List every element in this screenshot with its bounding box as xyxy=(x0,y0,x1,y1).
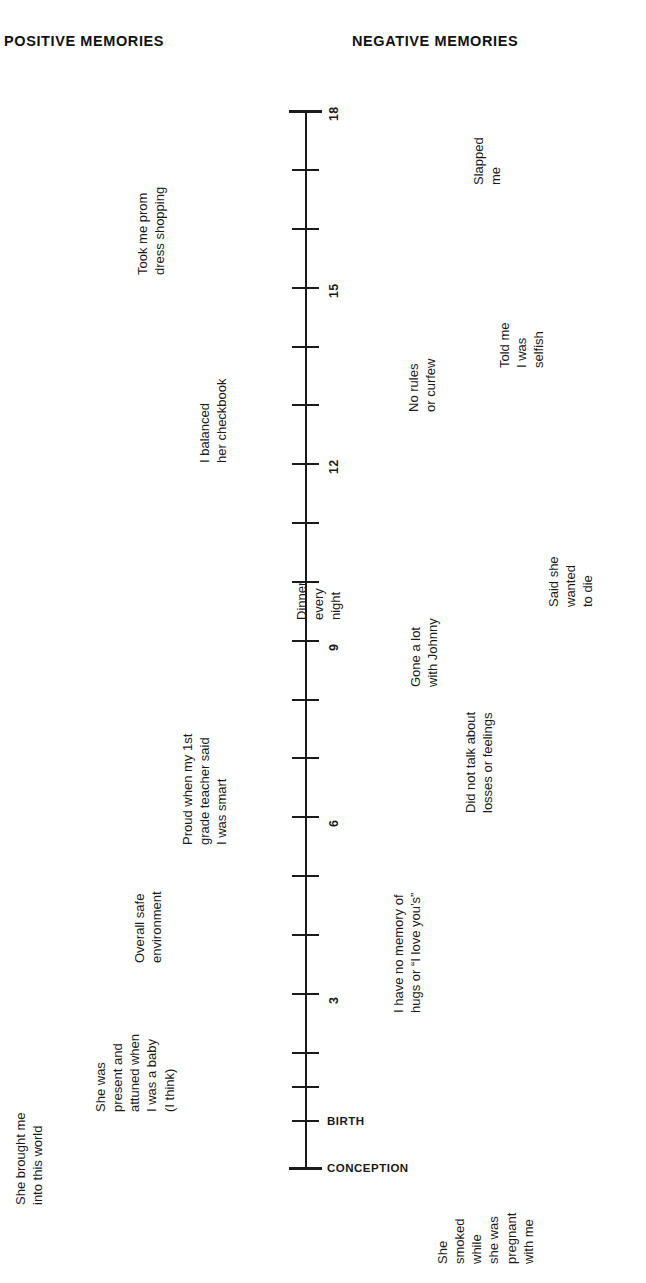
memory-line: grade teacher said xyxy=(196,734,213,845)
memory-line: (I think) xyxy=(161,1034,178,1112)
memory-line: She xyxy=(434,1213,451,1264)
axis-tick xyxy=(292,463,319,465)
memory-line: No rules xyxy=(405,359,422,412)
memory-line: Dinner xyxy=(293,582,310,620)
memory-line: She brought me xyxy=(12,1112,29,1205)
axis-year-label: 15 xyxy=(327,283,341,298)
axis-year-label: 3 xyxy=(327,997,341,1004)
memory-line: dress shopping xyxy=(151,187,168,275)
memory-line: hugs or “I love you’s” xyxy=(407,893,424,1013)
axis-tick xyxy=(292,1120,319,1122)
axis-tick xyxy=(289,110,322,113)
memory-line: or curfew xyxy=(422,359,439,412)
axis-tick xyxy=(292,640,319,642)
axis-tick xyxy=(292,228,319,230)
memory-line: while xyxy=(468,1213,485,1264)
positive-memory-balanced-her-checkbook: I balancedher checkbook xyxy=(196,378,230,463)
negative-memory-slapped-me: Slappedme xyxy=(470,137,504,185)
memory-line: Did not talk about xyxy=(462,712,479,813)
memory-line: losses or feelings xyxy=(479,712,496,813)
axis-tick xyxy=(292,993,319,995)
axis-tick xyxy=(292,934,319,936)
memory-line: wanted xyxy=(562,556,579,607)
memory-line: she was xyxy=(485,1213,502,1264)
memory-line: attuned when xyxy=(126,1034,143,1112)
memory-line: smoked xyxy=(451,1213,468,1264)
memory-line: Gone a lot xyxy=(407,618,424,687)
negative-memory-no-memory-of-hugs: I have no memory ofhugs or “I love you’s… xyxy=(390,893,424,1013)
axis-milestone-label: CONCEPTION xyxy=(327,1162,409,1174)
axis-tick xyxy=(289,1167,322,1170)
memory-line: I balanced xyxy=(196,378,213,463)
memory-line: environment xyxy=(148,891,165,963)
negative-memory-said-she-wanted-to-die: Said shewantedto die xyxy=(545,556,596,607)
axis-milestone-label: BIRTH xyxy=(327,1115,365,1127)
axis-tick xyxy=(292,757,319,759)
memory-line: with Johnny xyxy=(424,618,441,687)
negative-memory-smoked-while-pregnant: Shesmokedwhileshe waspregnantwith me xyxy=(434,1213,537,1264)
memory-line: her checkbook xyxy=(213,378,230,463)
axis-tick xyxy=(292,816,319,818)
axis-year-label: 12 xyxy=(327,459,341,474)
axis-tick xyxy=(292,404,319,406)
memory-line: me xyxy=(487,137,504,185)
memory-line: Took me prom xyxy=(134,187,151,275)
negative-memory-gone-a-lot-with-johnny: Gone a lotwith Johnny xyxy=(407,618,441,687)
memory-line: present and xyxy=(109,1034,126,1112)
positive-memory-overall-safe-environment: Overall safeenvironment xyxy=(131,891,165,963)
negative-memory-told-me-i-was-selfish: Told meI wasselfish xyxy=(496,322,547,368)
positive-memory-prom-dress-shopping: Took me promdress shopping xyxy=(134,187,168,275)
memory-line: every xyxy=(310,582,327,620)
axis-tick xyxy=(292,1086,319,1088)
positive-memory-brought-me-into-world: She brought meinto this world xyxy=(12,1112,46,1205)
memory-line: selfish xyxy=(530,322,547,368)
memory-line: Proud when my 1st xyxy=(179,734,196,845)
memory-line: into this world xyxy=(29,1112,46,1205)
memory-line: Said she xyxy=(545,556,562,607)
memory-line: Told me xyxy=(496,322,513,368)
memory-line: I have no memory of xyxy=(390,893,407,1013)
positive-memory-dinner-every-night: Dinnereverynight xyxy=(293,582,344,620)
negative-memory-did-not-talk-about-losses: Did not talk aboutlosses or feelings xyxy=(462,712,496,813)
memory-line: Overall safe xyxy=(131,891,148,963)
memory-line: to die xyxy=(579,556,596,607)
positive-memory-proud-first-grade-teacher: Proud when my 1stgrade teacher saidI was… xyxy=(179,734,230,845)
axis-year-label: 6 xyxy=(327,820,341,827)
memory-line: I was xyxy=(513,322,530,368)
axis-tick xyxy=(292,169,319,171)
axis-year-label: 18 xyxy=(327,106,341,121)
memory-line: She was xyxy=(92,1034,109,1112)
axis-tick xyxy=(292,699,319,701)
negative-memory-no-rules-or-curfew: No rulesor curfew xyxy=(405,359,439,412)
memory-line: with me xyxy=(520,1213,537,1264)
memory-line: I was smart xyxy=(213,734,230,845)
axis-year-label: 9 xyxy=(327,644,341,651)
positive-memory-present-and-attuned: She waspresent andattuned whenI was a ba… xyxy=(92,1034,178,1112)
axis-tick xyxy=(292,1052,319,1054)
memory-line: pregnant xyxy=(503,1213,520,1264)
axis-tick xyxy=(292,346,319,348)
axis-tick xyxy=(292,522,319,524)
axis-tick xyxy=(292,287,319,289)
axis-tick xyxy=(292,875,319,877)
memory-line: night xyxy=(327,582,344,620)
memory-line: Slapped xyxy=(470,137,487,185)
memory-line: I was a baby xyxy=(143,1034,160,1112)
